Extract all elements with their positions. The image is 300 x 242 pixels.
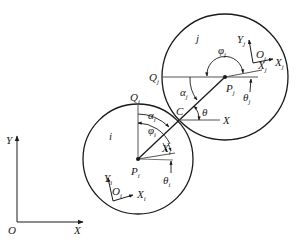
center-pi-label: Pi bbox=[130, 165, 140, 180]
body-xi-ref bbox=[138, 159, 173, 160]
angle-phi-i-label: φi bbox=[148, 124, 156, 139]
frame-i-y-label: Yi bbox=[104, 172, 112, 187]
frame-j-y-axis bbox=[249, 40, 253, 63]
contact-x-label: X bbox=[222, 114, 231, 126]
angle-theta-j-label: θj bbox=[243, 91, 250, 106]
point-qj-label: Qj bbox=[149, 71, 159, 86]
angle-theta-j-arrow bbox=[250, 79, 251, 92]
frame-j-y-label: Yj bbox=[237, 33, 245, 48]
contact-theta-label: θ bbox=[202, 106, 208, 118]
angle-theta-i-label: θi bbox=[163, 174, 170, 189]
angle-phi-j-arc bbox=[207, 56, 243, 76]
frame-j-x-label: Xj bbox=[274, 56, 284, 71]
body-xj-axis bbox=[225, 70, 262, 77]
circle-i-region-label: i bbox=[109, 130, 112, 142]
angle-alpha-j-label: αj bbox=[180, 86, 188, 101]
contact-geometry-diagram: O X Y j φj θj Pj Xj Qj αj Oj Xj Yj i bbox=[0, 0, 300, 242]
global-frame: O X Y bbox=[6, 134, 83, 236]
contact-point-label: C bbox=[176, 105, 184, 117]
angle-alpha-i-label: αi bbox=[148, 109, 156, 124]
angle-alpha-j-arc bbox=[190, 77, 197, 100]
circle-j-region-label: j bbox=[194, 32, 199, 44]
circle-j-group: j φj θj Pj Xj Qj αj Oj Xj Yj bbox=[149, 14, 288, 140]
contact-theta-arc bbox=[194, 106, 199, 120]
global-x-label: X bbox=[73, 224, 82, 236]
center-pj-label: Pj bbox=[225, 82, 235, 97]
frame-i-origin-label: Oi bbox=[112, 185, 122, 200]
global-origin-label: O bbox=[8, 224, 16, 236]
global-y-label: Y bbox=[6, 134, 14, 146]
frame-i-x-label: Xi bbox=[136, 188, 146, 203]
